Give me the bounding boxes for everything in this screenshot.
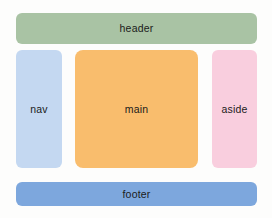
layout-diagram: header nav main aside footer <box>0 0 272 218</box>
region-nav[interactable]: nav <box>16 50 62 168</box>
region-nav-label: nav <box>30 104 48 115</box>
region-main[interactable]: main <box>75 50 198 168</box>
region-footer[interactable]: footer <box>16 182 257 206</box>
region-header-label: header <box>120 23 154 34</box>
region-aside-label: aside <box>221 104 247 115</box>
region-header[interactable]: header <box>16 13 257 44</box>
region-aside[interactable]: aside <box>212 50 257 168</box>
region-footer-label: footer <box>122 189 150 200</box>
region-main-label: main <box>125 104 149 115</box>
